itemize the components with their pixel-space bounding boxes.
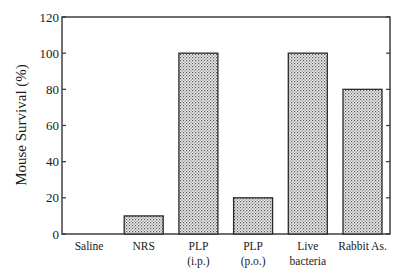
bar-rabbit-as (343, 89, 382, 234)
y-tick-label: 60 (46, 118, 59, 133)
x-category-label: (i.p.) (187, 255, 210, 268)
bar-live-bacteria (288, 53, 327, 234)
y-axis-label: Mouse Survival (%) (13, 64, 30, 186)
x-category-label: PLP (243, 240, 263, 252)
x-axis-labels: SalineNRSPLP(i.p.)PLP(p.o.)LivebacteriaR… (75, 240, 387, 268)
plot-frame (62, 17, 390, 234)
y-tick-label: 120 (40, 10, 60, 25)
x-category-label: (p.o.) (241, 255, 266, 268)
y-tick-label: 100 (40, 46, 60, 61)
y-tick-label: 0 (53, 227, 60, 242)
x-category-label: PLP (188, 240, 208, 252)
x-category-label: NRS (133, 240, 155, 252)
x-category-label: Saline (75, 240, 104, 252)
bar-nrs (124, 216, 163, 234)
y-tick-label: 20 (46, 190, 59, 205)
bars (124, 53, 382, 234)
y-tick-label: 40 (46, 154, 59, 169)
x-category-label: Live (297, 240, 318, 252)
bar-plp-p-o (234, 198, 273, 234)
bar-chart: 020406080100120 SalineNRSPLP(i.p.)PLP(p.… (0, 0, 404, 275)
x-category-label: bacteria (290, 255, 326, 267)
x-category-label: Rabbit As. (338, 240, 387, 252)
bar-plp-i-p (179, 53, 218, 234)
y-tick-label: 80 (46, 82, 59, 97)
